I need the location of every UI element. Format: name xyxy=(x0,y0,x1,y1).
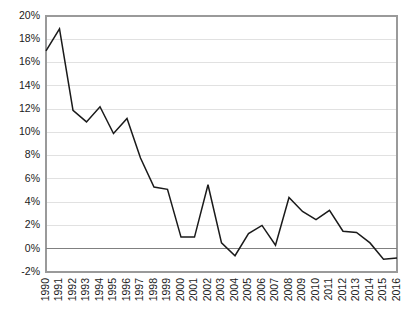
x-axis-tick-label: 1993 xyxy=(79,278,91,302)
x-axis-tick-label: 2013 xyxy=(349,278,361,302)
x-axis-tick-label: 2001 xyxy=(187,278,199,302)
x-axis-tick-label: 1992 xyxy=(66,278,78,302)
x-axis-tick-label: 1997 xyxy=(133,278,145,302)
y-axis-tick-label: 12% xyxy=(19,102,40,114)
x-axis-tick-label: 2006 xyxy=(255,278,267,302)
y-axis-tick-label: 18% xyxy=(19,32,40,44)
x-axis-tick-label: 1991 xyxy=(52,278,64,302)
x-axis-tick-label: 1995 xyxy=(106,278,118,302)
y-axis-tick-label: -2% xyxy=(21,265,40,277)
x-axis-tick-label: 2014 xyxy=(363,278,375,302)
y-axis-tick-label: 10% xyxy=(19,125,40,137)
x-axis-tick-label: 2015 xyxy=(376,278,388,302)
y-axis-tick-label: 16% xyxy=(19,55,40,67)
x-axis-tick-label: 2002 xyxy=(201,278,213,302)
x-axis-tick-label: 1994 xyxy=(93,278,105,302)
y-axis-tick-label: 0% xyxy=(25,242,40,254)
x-axis-tick-label: 2007 xyxy=(268,278,280,302)
chart-canvas: -2%0%2%4%6%8%10%12%14%16%18%20% 19901991… xyxy=(0,0,409,314)
x-axis-tick-label: 1999 xyxy=(160,278,172,302)
x-axis-tick-label: 2012 xyxy=(336,278,348,302)
x-axis-tick-label: 2003 xyxy=(214,278,226,302)
chart-background xyxy=(0,0,409,314)
x-axis-tick-label: 1996 xyxy=(120,278,132,302)
x-axis-tick-label: 2004 xyxy=(228,278,240,302)
line-chart: -2%0%2%4%6%8%10%12%14%16%18%20% 19901991… xyxy=(0,0,409,314)
x-axis-tick-label: 1990 xyxy=(39,278,51,302)
x-axis-tick-label: 2008 xyxy=(282,278,294,302)
y-axis-tick-label: 20% xyxy=(19,9,40,21)
x-axis-tick-labels: 1990199119921993199419951996199719981999… xyxy=(39,278,402,302)
x-axis-tick-label: 2010 xyxy=(309,278,321,302)
x-axis-tick-label: 2016 xyxy=(390,278,402,302)
x-axis-tick-label: 1998 xyxy=(147,278,159,302)
y-axis-tick-label: 8% xyxy=(25,148,40,160)
x-axis-tick-label: 2000 xyxy=(174,278,186,302)
y-axis-tick-label: 14% xyxy=(19,79,40,91)
y-axis-tick-label: 2% xyxy=(25,218,40,230)
x-axis-tick-label: 2009 xyxy=(295,278,307,302)
x-axis-tick-label: 2011 xyxy=(322,278,334,301)
y-axis-tick-label: 6% xyxy=(25,172,40,184)
y-axis-tick-label: 4% xyxy=(25,195,40,207)
x-axis-tick-label: 2005 xyxy=(241,278,253,302)
